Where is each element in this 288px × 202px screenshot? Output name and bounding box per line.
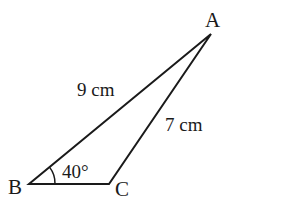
vertex-label-c: C (115, 177, 129, 201)
triangle-diagram: A B C 9 cm 7 cm 40° (0, 0, 288, 202)
triangle-abc (29, 34, 211, 184)
angle-label-b: 40° (62, 161, 89, 182)
side-label-ab: 9 cm (77, 79, 115, 100)
vertex-label-b: B (8, 175, 22, 199)
angle-b-arc (50, 167, 56, 184)
vertex-label-a: A (205, 8, 221, 32)
side-label-ac: 7 cm (165, 114, 203, 135)
